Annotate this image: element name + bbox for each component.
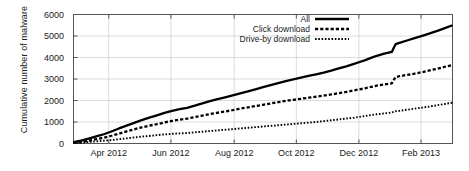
legend-swatch-dotted xyxy=(314,34,350,44)
legend-swatch-solid xyxy=(314,14,350,24)
series-line-drive-by-download xyxy=(74,103,453,143)
legend-item-all[interactable]: All xyxy=(301,14,350,24)
legend-item-drive-by-download[interactable]: Drive-by download xyxy=(240,34,350,44)
legend-label: All xyxy=(301,14,310,24)
y-axis-tick-marks xyxy=(74,15,78,144)
legend-label: Drive-by download xyxy=(240,34,310,44)
chart-legend: AllClick downloadDrive-by download xyxy=(200,14,350,44)
series-line-click-download xyxy=(74,65,453,143)
chart-figure: Cumulative number of malware 01000200030… xyxy=(0,0,469,171)
legend-item-click-download[interactable]: Click download xyxy=(253,24,350,34)
legend-swatch-dashed xyxy=(314,24,350,34)
legend-label: Click download xyxy=(253,24,310,34)
